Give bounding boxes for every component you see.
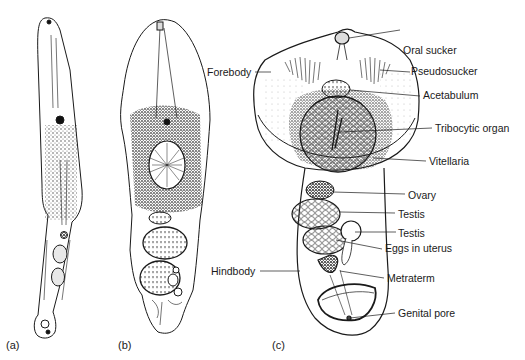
panel-label-b: (b) bbox=[118, 339, 131, 351]
label-ovary: Ovary bbox=[408, 189, 436, 201]
label-vitellaria: Vitellaria bbox=[429, 155, 469, 167]
label-genital-pore: Genital pore bbox=[398, 307, 455, 319]
panel-label-c: (c) bbox=[272, 339, 285, 351]
label-metraterm: Metraterm bbox=[387, 272, 435, 284]
label-forebody: Forebody bbox=[207, 66, 251, 78]
label-testis-1: Testis bbox=[398, 208, 425, 220]
specimen-a bbox=[34, 18, 82, 338]
label-testis-2: Testis bbox=[398, 227, 425, 239]
label-acetabulum: Acetabulum bbox=[423, 89, 478, 101]
label-tribocytic-organ: Tribocytic organ bbox=[435, 122, 509, 134]
label-oral-sucker: Oral sucker bbox=[403, 44, 457, 56]
specimen-b bbox=[121, 20, 210, 334]
panel-label-a: (a) bbox=[6, 339, 19, 351]
specimen-c bbox=[254, 29, 419, 335]
label-pseudosucker: Pseudosucker bbox=[411, 65, 478, 77]
label-eggs-in-uterus: Eggs in uterus bbox=[385, 242, 452, 254]
label-hindbody: Hindbody bbox=[211, 265, 255, 277]
